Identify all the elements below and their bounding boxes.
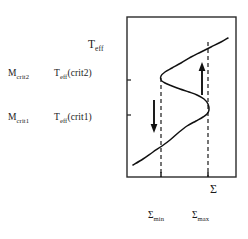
s-curve-figure: Mcrit2 Teff(crit2) Mcrit1 Teff(crit1) Te…: [0, 0, 248, 239]
down-arrow: [151, 100, 158, 133]
x-axis-ticks: [161, 172, 208, 177]
plot-canvas: [0, 0, 248, 239]
up-arrow: [199, 62, 206, 95]
s-curve-path: [133, 38, 228, 165]
plot-frame: [127, 17, 236, 177]
